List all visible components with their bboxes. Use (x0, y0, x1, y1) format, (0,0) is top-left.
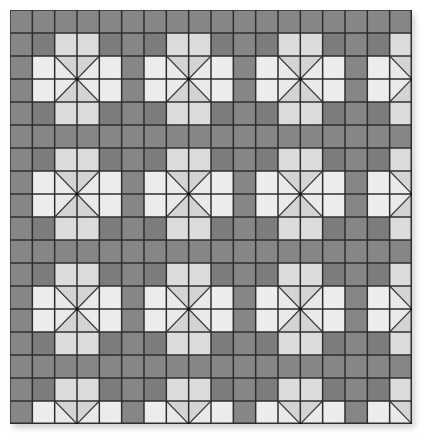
x-center-dot (75, 307, 78, 310)
x-center-dot (75, 77, 78, 80)
x-center-dot (187, 307, 190, 310)
x-center-dot (187, 77, 190, 80)
x-center-dot (187, 192, 190, 195)
x-center-dot (299, 192, 302, 195)
grid-svg (10, 10, 412, 424)
quilt-grid-board (10, 10, 412, 424)
x-center-dot (299, 77, 302, 80)
x-center-dot (299, 307, 302, 310)
x-center-dot (75, 192, 78, 195)
